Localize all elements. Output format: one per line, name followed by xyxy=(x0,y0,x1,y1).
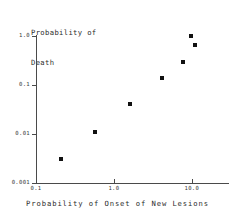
data-point xyxy=(193,43,197,47)
data-point xyxy=(160,76,164,80)
data-point xyxy=(59,157,63,161)
y-axis-title-line-2: Death xyxy=(31,58,96,68)
y-axis-tick-label: 1.0 xyxy=(0,32,30,38)
x-axis-tick-label: 10.0 xyxy=(175,185,209,191)
data-point xyxy=(181,60,185,64)
x-axis-tick-label: 0.1 xyxy=(19,185,53,191)
x-axis-tick-label: 1.0 xyxy=(97,185,131,191)
data-point xyxy=(93,130,97,134)
y-axis-tick-label: 0.1 xyxy=(0,81,30,87)
y-axis-line xyxy=(36,35,37,184)
y-axis-tick-label-wrap: 1.0 xyxy=(0,32,30,40)
y-axis-tick xyxy=(32,85,37,86)
x-axis-title: Probability of Onset of New Lesions xyxy=(0,199,235,208)
data-point xyxy=(128,102,132,106)
y-axis-tick-label-wrap: 0.01 xyxy=(0,130,30,138)
y-axis-title-line-1: Probability of xyxy=(31,28,96,38)
data-point xyxy=(189,34,193,38)
y-axis-tick-label-wrap: 0.1 xyxy=(0,81,30,89)
y-axis-tick xyxy=(32,36,37,37)
y-axis-tick-label: 0.01 xyxy=(0,130,30,136)
y-axis-tick xyxy=(32,134,37,135)
x-axis-tick xyxy=(36,179,37,184)
scatter-chart: Probability of Death 1.00.10.010.001 0.1… xyxy=(0,0,235,222)
x-axis-tick xyxy=(114,179,115,184)
x-axis-tick xyxy=(192,179,193,184)
y-axis-title: Probability of Death xyxy=(31,8,96,88)
x-axis-line xyxy=(36,183,229,184)
